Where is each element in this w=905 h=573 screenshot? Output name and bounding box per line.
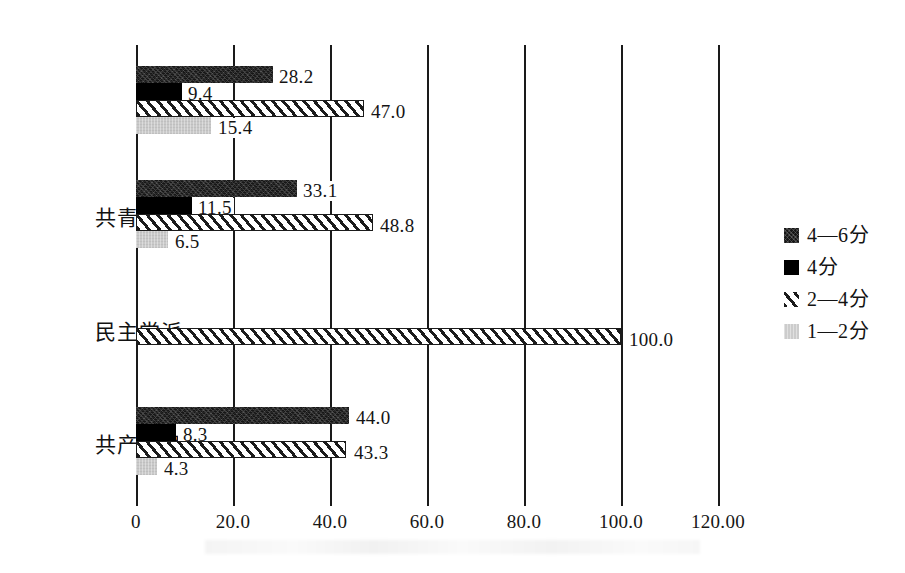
bar-group-0-series-2 [136,100,364,117]
legend-item-0: 4—6分 [784,219,869,251]
bar-group-3-series-0 [136,407,349,424]
x-tick-label-0: 0 [131,511,141,533]
scan-artifact [205,540,700,554]
bar-group-3-series-1 [136,424,176,441]
bar-group-1-series-3 [136,231,168,248]
legend-item-1: 4分 [784,251,869,283]
x-tick-mark-60 [427,495,429,506]
bar-value-group-0-series-2: 47.0 [366,102,407,122]
legend-item-2: 2—4分 [784,283,869,315]
bar-value-group-0-series-3: 15.4 [213,118,254,138]
bar-group-0-series-1 [136,83,182,100]
x-tick-label-120: 120.00 [691,511,745,533]
legend-item-3: 1—2分 [784,315,869,347]
legend-label-2: 2—4分 [807,288,869,310]
x-tick-label-60: 60.0 [410,511,444,533]
bar-group-3-series-3 [136,458,157,475]
x-tick-label-40: 40.0 [313,511,347,533]
legend-swatch-4-icon [784,260,799,275]
gridline-100 [621,45,623,495]
bar-value-group-1-series-3: 6.5 [170,232,202,252]
bar-value-group-0-series-0: 28.2 [274,67,315,87]
x-tick-mark-80 [524,495,526,506]
gridline-60 [427,45,429,495]
legend-swatch-4-6-icon [784,228,799,243]
x-tick-mark-20 [233,495,235,506]
bar-value-group-3-series-2: 43.3 [349,443,390,463]
gridline-120 [718,45,720,495]
bar-group-1-series-2 [136,214,373,231]
bar-group-3-series-2 [136,441,346,458]
chart-legend: 4—6分 4分 2—4分 1—2分 [784,219,869,347]
legend-label-1: 4分 [807,256,838,278]
x-tick-mark-0 [136,495,138,506]
bar-group-0-series-3 [136,117,211,134]
plot-area: 0 20.0 40.0 60.0 80.0 100.0 120.00 28.2 … [136,45,718,495]
legend-swatch-2-4-icon [784,292,799,307]
x-tick-label-100: 100.0 [599,511,643,533]
gridline-80 [524,45,526,495]
legend-label-0: 4—6分 [807,224,869,246]
bar-group-2-series-2 [136,328,621,345]
bar-group-1-series-1 [136,197,192,214]
bar-group-1-series-0 [136,180,297,197]
bar-chart: 群众 共青团员 民主党派 共产党员 0 20.0 40.0 60.0 80.0 … [0,0,905,573]
legend-swatch-1-2-icon [784,324,799,339]
bar-value-group-1-series-0: 33.1 [298,181,339,201]
legend-label-3: 1—2分 [807,320,869,342]
x-tick-mark-120 [718,495,720,506]
x-tick-mark-40 [330,495,332,506]
bar-value-group-1-series-2: 48.8 [375,216,416,236]
bar-value-group-3-series-0: 44.0 [351,408,392,428]
bar-value-group-3-series-3: 4.3 [159,459,191,479]
x-tick-label-20: 20.0 [216,511,250,533]
x-tick-mark-100 [621,495,623,506]
bar-value-group-2-series-2: 100.0 [624,330,675,350]
x-tick-label-80: 80.0 [507,511,541,533]
bar-group-0-series-0 [136,66,273,83]
